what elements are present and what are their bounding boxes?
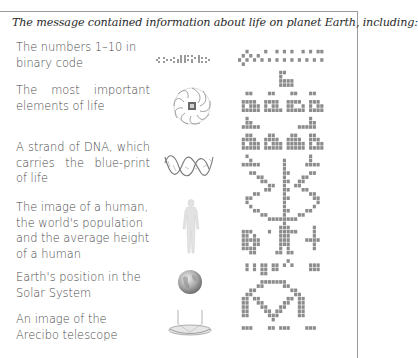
- earth-globe-icon: [177, 269, 203, 295]
- human-figure-icon: [180, 199, 202, 255]
- item-elements-label: The most important elements of life: [16, 83, 150, 114]
- caption: The message contained information about …: [12, 16, 418, 29]
- binary-numbers-icon: [155, 54, 211, 66]
- arecibo-telescope-icon: [166, 308, 214, 338]
- item-binary-numbers-label: The numbers 1–10 in binary code: [16, 40, 150, 71]
- item-telescope-label: An image of the Arecibo telescope: [16, 312, 150, 343]
- arecibo-message-pixel-art: [238, 41, 324, 335]
- item-dna-label: A strand of DNA, which carries the blue-…: [16, 140, 150, 187]
- item-human-label: The image of a human, the world's popula…: [16, 200, 156, 262]
- dna-strand-icon: [163, 153, 215, 181]
- item-earth-position-label: Earth's position in the Solar System: [16, 270, 150, 301]
- elements-wheel-icon: [170, 84, 214, 128]
